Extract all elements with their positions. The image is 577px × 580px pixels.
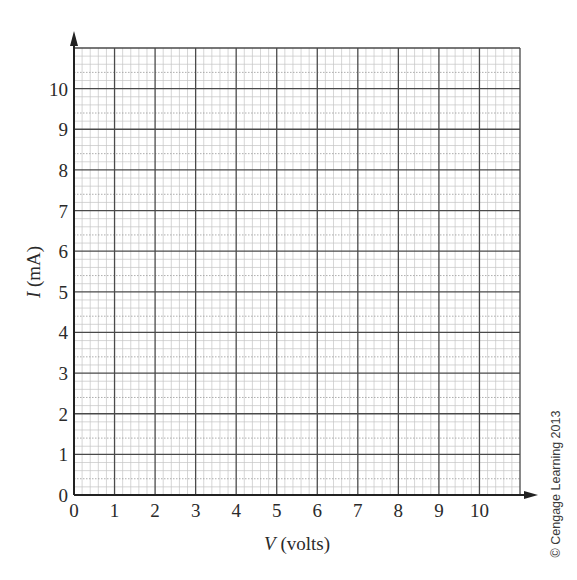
x-axis-arrow-icon [524,491,538,499]
y-axis-arrow-icon [70,31,78,46]
y-tick-label: 9 [59,119,69,140]
x-tick-label: 10 [470,500,489,521]
x-tick-label: 2 [150,500,160,521]
y-tick-label: 6 [59,241,69,262]
x-tick-labels: 012345678910 [69,500,489,521]
y-tick-label: 5 [59,282,69,303]
mid-dotted-grid [74,72,520,478]
y-tick-label: 2 [59,404,69,425]
x-tick-label: 8 [394,500,404,521]
x-tick-label: 1 [110,500,120,521]
y-axis-label: I (mA) [23,246,45,299]
iv-graph-chart: 012345678910 012345678910 V (volts) I (m… [0,0,577,580]
y-tick-label: 8 [59,160,69,181]
x-axis-label: V (volts) [264,533,330,555]
y-tick-label: 4 [59,322,69,343]
x-tick-label: 5 [272,500,282,521]
x-tick-label: 0 [69,500,79,521]
y-tick-label: 10 [49,79,68,100]
x-tick-label: 4 [231,500,241,521]
x-tick-label: 9 [434,500,444,521]
x-tick-label: 7 [353,500,363,521]
minor-grid [74,48,520,495]
y-tick-label: 3 [59,363,69,384]
y-tick-label: 7 [59,201,69,222]
copyright-credit: © Cengage Learning 2013 [549,411,563,558]
y-tick-labels: 012345678910 [49,79,69,506]
x-tick-label: 3 [191,500,201,521]
axes [70,31,538,499]
x-tick-label: 6 [313,500,323,521]
y-tick-label: 1 [59,444,69,465]
y-tick-label: 0 [59,485,69,506]
major-grid [74,48,520,495]
